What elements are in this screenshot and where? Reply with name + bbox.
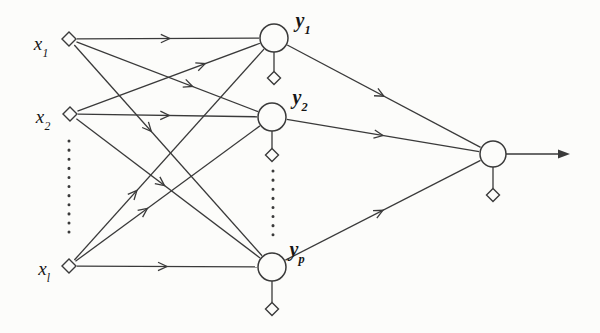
node-label-subscript: p xyxy=(299,252,305,266)
edge-x2-yp xyxy=(76,119,260,258)
bias-diamond-yp xyxy=(266,303,279,316)
node-label-x2: x2 xyxy=(36,107,50,126)
hidden-node-y1 xyxy=(260,24,288,52)
node-label-base: x xyxy=(34,33,42,54)
node-label-subscript: 2 xyxy=(45,119,51,132)
node-label-base: x xyxy=(38,258,46,279)
node-label-subscript: 2 xyxy=(302,100,308,114)
network-svg xyxy=(0,0,600,333)
input-diamond-xl xyxy=(62,259,76,273)
node-label-y1: y1 xyxy=(295,10,310,30)
hidden-node-yp xyxy=(258,253,286,281)
node-label-base: x xyxy=(36,106,44,127)
node-label-subscript: l xyxy=(47,271,50,284)
node-label-xl: xl xyxy=(38,259,50,278)
node-label-base: y xyxy=(292,86,301,108)
edge-xl-y1 xyxy=(74,49,264,260)
hidden-node-y2 xyxy=(258,103,286,131)
node-label-subscript: 1 xyxy=(43,46,49,59)
node-label-y2: y2 xyxy=(292,87,307,107)
node-label-yp: yp xyxy=(289,239,304,259)
bias-diamond-y1 xyxy=(268,72,281,85)
node-label-x1: x1 xyxy=(34,34,48,53)
edge-xl-y2 xyxy=(75,126,259,261)
input-diamond-x1 xyxy=(62,32,76,46)
node-label-subscript: 1 xyxy=(305,23,311,37)
node-label-base: y xyxy=(295,9,304,31)
node-label-base: y xyxy=(289,238,298,260)
bias-diamond-out xyxy=(487,189,500,202)
input-diamond-x2 xyxy=(63,107,77,121)
output-node xyxy=(480,141,506,167)
network-diagram: x1x2xly1y2yp xyxy=(0,0,600,333)
output-arrowhead xyxy=(558,149,570,158)
bias-diamond-y2 xyxy=(266,149,279,162)
